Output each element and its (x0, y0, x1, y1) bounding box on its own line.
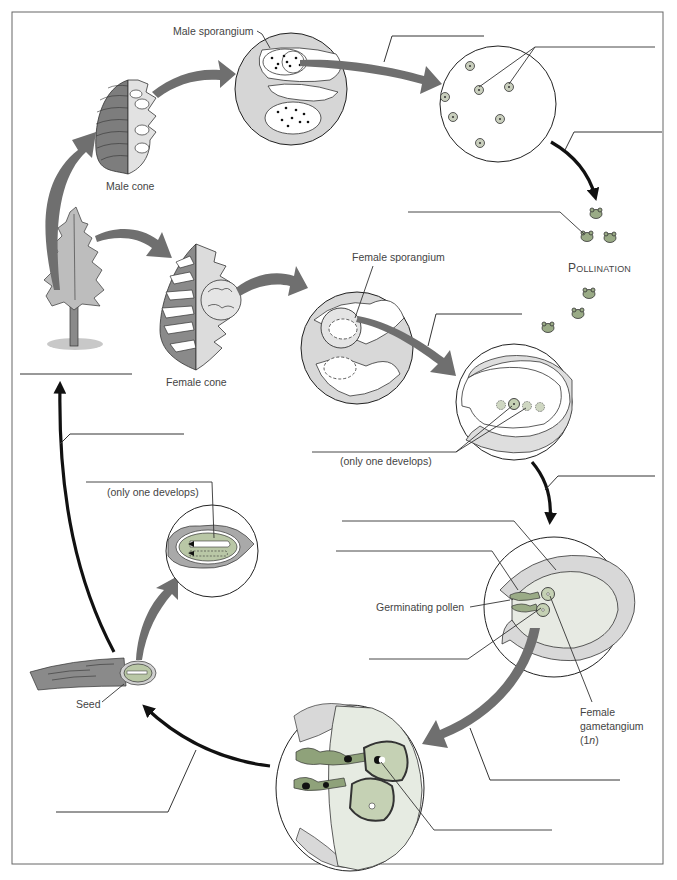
arrow-female-cone-to-sporangium (236, 266, 308, 296)
seed-leader (102, 684, 124, 702)
seed-label: Seed (76, 698, 101, 710)
seed-icon (30, 658, 156, 690)
blank-pollen-grain (408, 212, 584, 234)
female-gametangium-label: Femalegametangium(1n) (580, 706, 644, 746)
blank-female-meiosis (428, 314, 522, 346)
fertilization-detail (276, 704, 424, 872)
pollination-label: POLLINATION (568, 261, 631, 275)
arrow-male-cone-to-sporangium (152, 60, 236, 98)
blank-pollen-dispersal (565, 132, 662, 150)
megaspores-detail (456, 344, 572, 460)
blank-development (545, 476, 655, 490)
pollen-grains (483, 208, 616, 365)
female-cone-icon (160, 244, 241, 370)
arrow-seed-to-embryo (136, 576, 178, 660)
arrow-seed-to-tree (60, 386, 114, 652)
only-one-develops-top-label: (only one develops) (340, 455, 432, 467)
arrow-megaspores-to-gametangium (532, 462, 550, 520)
microspores-detail (440, 46, 556, 162)
gametangium-detail (484, 537, 635, 677)
male-sporangium-detail (235, 33, 347, 145)
male-cone-label: Male cone (106, 180, 155, 192)
male-cone-icon (96, 80, 156, 174)
arrow-tree-to-female-cone (95, 229, 172, 258)
embryo-detail (166, 505, 258, 597)
female-sporangium-label: Female sporangium (352, 251, 445, 263)
female-sporangium-detail (301, 292, 413, 404)
blank-germination (60, 434, 184, 444)
germinating-pollen-label: Germinating pollen (376, 601, 464, 613)
female-cone-label: Female cone (166, 376, 227, 388)
arrow-fertilization-to-seed (146, 708, 270, 766)
only-one-develops-seed-label: (only one develops) (107, 486, 199, 498)
arrow-microspores-to-pollen (551, 142, 595, 196)
pine-life-cycle-diagram: Male cone Male sporangium (0, 0, 677, 880)
blank-seed-formation (56, 750, 196, 812)
male-sporangium-label: Male sporangium (173, 25, 254, 37)
